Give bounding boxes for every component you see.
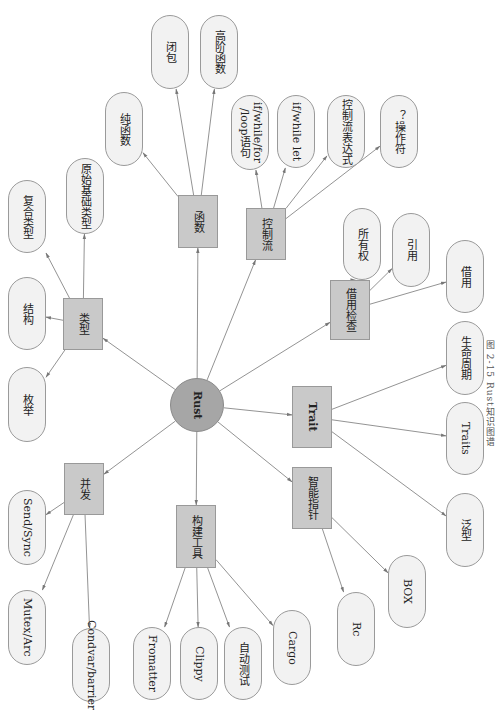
leaf-label: 纯函数 [118, 113, 131, 146]
leaf-label: 高阶函数 [213, 30, 226, 74]
edge-build-tools-to-clippy [197, 568, 198, 627]
leaf-node-primitive-types: 原始基础类型 [66, 158, 104, 234]
leaf-node-cargo: Cargo [273, 610, 311, 685]
leaf-label: if/while let [290, 102, 303, 161]
branch-node-trait: Trait [292, 386, 332, 448]
leaf-label: 结构 [21, 303, 34, 325]
branch-label: 智能指针 [306, 476, 319, 520]
leaf-node-closures: 闭包 [151, 15, 189, 89]
branch-node-types: 类型 [63, 298, 103, 350]
edge-build-tools-to-cargo [216, 560, 273, 626]
edge-root-to-trait [224, 408, 292, 415]
leaf-label: Fromatter [146, 635, 159, 692]
leaf-label: 原始基础类型 [79, 163, 92, 229]
leaf-label: Rc [350, 622, 363, 636]
leaf-label: 泛型 [459, 519, 472, 541]
leaf-node-higher-order-functions: 高阶函数 [200, 15, 238, 89]
edge-types-to-struct [46, 317, 63, 320]
leaf-node-mutex-arc: Mutex/Arc [8, 590, 46, 665]
leaf-node-borrowing: 借用 [446, 240, 484, 313]
leaf-label: 枚举 [21, 394, 34, 416]
leaf-label: 自动测试 [237, 642, 250, 686]
leaf-label: 复合类型 [21, 195, 34, 239]
branch-label: 控制流 [260, 218, 273, 251]
edge-concurrency-to-send-sync [46, 503, 64, 515]
edge-trait-to-generics [332, 432, 446, 516]
edge-build-tools-to-formatter [165, 568, 185, 627]
edge-root-to-concurrency [104, 421, 175, 474]
edge-root-to-smart-pointers [218, 422, 292, 482]
leaf-label: 所有权 [356, 228, 369, 261]
leaf-node-rc: Rc [337, 592, 375, 666]
edge-functions-to-closures [176, 89, 194, 195]
edge-trait-to-lifetimes [332, 365, 446, 409]
leaf-node-control-flow-expr: 控制流表达式 [327, 95, 365, 168]
leaf-label: if/while/for /loop语句 [237, 102, 262, 163]
edge-concurrency-to-mutex-arc [42, 515, 73, 590]
branch-label: 构建工具 [190, 515, 203, 559]
leaf-label: 控制流表达式 [340, 99, 353, 165]
leaf-label: BOX [401, 579, 414, 604]
leaf-label: Condvar/barrier [85, 620, 98, 710]
edge-root-to-borrow-check [220, 322, 330, 390]
leaf-label: 借用 [459, 266, 472, 288]
edge-functions-to-pure-functions [143, 153, 178, 197]
edge-functions-to-higher-order-functions [201, 89, 214, 195]
leaf-label: 引用 [405, 239, 418, 261]
leaf-label: Mutex/Arc [21, 598, 34, 657]
edge-root-to-types [103, 338, 175, 389]
edge-types-to-primitive-types [83, 234, 84, 298]
branch-node-functions: 函数 [178, 195, 218, 248]
branch-label: Trait [306, 402, 319, 432]
edge-trait-to-traits [332, 420, 446, 436]
leaf-node-ownership: 所有权 [343, 208, 381, 280]
leaf-node-condvar-barrier: Condvar/barrier [72, 628, 110, 702]
leaf-label: ？操作符 [393, 110, 406, 154]
edge-concurrency-to-condvar-barrier [85, 515, 89, 628]
leaf-node-lifetimes: 生命周期 [446, 321, 484, 395]
leaf-node-pure-functions: 纯函数 [105, 92, 143, 166]
leaf-label: Traits [459, 422, 472, 455]
leaf-node-box: BOX [388, 555, 426, 628]
branch-node-build-tools: 构建工具 [176, 505, 216, 568]
edge-control-flow-to-if-while-let [274, 168, 286, 208]
edge-types-to-enum [46, 350, 65, 377]
edge-control-flow-to-loop-statements [256, 170, 262, 208]
leaf-node-references: 引用 [392, 213, 430, 287]
leaf-node-send-sync: Send/Sync [8, 490, 46, 565]
edge-root-to-build-tools [196, 432, 197, 505]
branch-node-concurrency: 并发 [64, 463, 104, 515]
leaf-node-if-while-let: if/while let [277, 95, 315, 168]
leaf-node-traits: Traits [446, 402, 484, 475]
leaf-label: 生命周期 [459, 336, 472, 380]
leaf-node-loop-statements: if/while/for /loop语句 [231, 95, 269, 170]
leaf-node-compound-types: 复合类型 [8, 180, 46, 253]
leaf-node-question-operator: ？操作符 [380, 95, 418, 168]
leaf-label: Send/Sync [21, 498, 34, 557]
branch-label: 类型 [77, 313, 90, 335]
figure-caption: 图 2-15 Rust知识图谱 [484, 340, 497, 447]
leaf-node-struct: 结构 [8, 277, 46, 350]
leaf-node-formatter: Fromatter [133, 627, 171, 700]
leaf-label: Cargo [286, 631, 299, 665]
edge-smart-pointers-to-box [332, 518, 388, 573]
branch-label: 并发 [78, 478, 91, 500]
edge-smart-pointers-to-rc [322, 529, 343, 592]
root-label: Rust [191, 391, 204, 419]
branch-label: 借用检查 [344, 288, 357, 332]
branch-node-borrow-check: 借用检查 [330, 280, 370, 340]
edge-types-to-compound-types [46, 253, 69, 298]
edge-root-to-functions [197, 248, 198, 378]
leaf-node-auto-test: 自动测试 [224, 627, 262, 700]
leaf-label: Clippy [193, 646, 206, 682]
branch-label: 函数 [192, 211, 205, 233]
leaf-node-generics: 泛型 [446, 493, 484, 567]
edge-root-to-control-flow [207, 260, 255, 380]
leaf-node-clippy: Clippy [180, 627, 218, 700]
root-node-rust: Rust [170, 378, 224, 432]
leaf-label: 闭包 [164, 41, 177, 63]
branch-node-smart-pointers: 智能指针 [292, 467, 332, 529]
branch-node-control-flow: 控制流 [246, 208, 286, 260]
leaf-node-enum: 枚举 [8, 367, 46, 442]
